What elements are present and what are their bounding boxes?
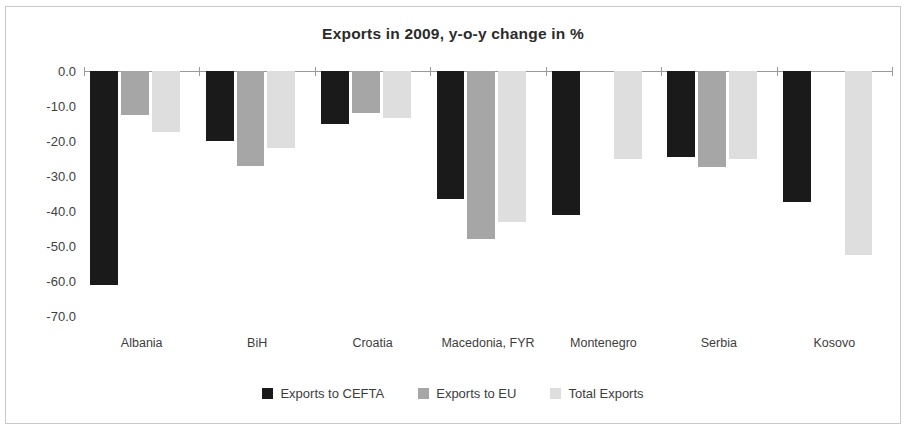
bar[interactable] [237,71,265,166]
y-axis-tick-label: -60.0 [46,274,76,289]
bar[interactable] [698,71,726,167]
chart-title: Exports in 2009, y-o-y change in % [6,25,900,43]
bar-slot [729,71,757,316]
x-axis-category-label: Montenegro [546,334,661,353]
y-axis-tick-label: -40.0 [46,204,76,219]
bar[interactable] [845,71,873,255]
legend-label: Exports to CEFTA [280,386,384,401]
bar-group: Kosovo [777,71,892,316]
legend-label: Total Exports [568,386,643,401]
bar-slot [267,71,295,316]
bar-group: BiH [199,71,314,316]
y-axis-tick-label: -10.0 [46,99,76,114]
bar-slot [667,71,695,316]
legend-swatch-icon [262,388,273,399]
x-axis-category-label: Kosovo [777,334,892,353]
bar-slot-row [430,71,545,316]
bar-group: Albania [84,71,199,316]
bar-slot [814,71,842,316]
legend-swatch-icon [550,388,561,399]
bar-slot-row [315,71,430,316]
bar[interactable] [498,71,526,222]
bar-slot [698,71,726,316]
chart-container: Exports in 2009, y-o-y change in % 0.0-1… [5,6,901,424]
bar-slot [498,71,526,316]
bar-slot [152,71,180,316]
bar[interactable] [614,71,642,159]
bar-slot-row [777,71,892,316]
bar-slot [614,71,642,316]
x-axis-category-label: Serbia [661,334,776,353]
bar-slot [437,71,465,316]
bar[interactable] [729,71,757,159]
bar-group: Croatia [315,71,430,316]
y-axis-tick-label: 0.0 [58,64,76,79]
chart-legend: Exports to CEFTAExports to EUTotal Expor… [6,386,900,401]
legend-label: Exports to EU [436,386,516,401]
bar[interactable] [667,71,695,157]
legend-item[interactable]: Total Exports [550,386,643,401]
bar[interactable] [152,71,180,132]
bar-group: Montenegro [546,71,661,316]
bar-slot [90,71,118,316]
bar[interactable] [206,71,234,141]
x-axis-category-label: Albania [84,334,199,353]
bar-slot [237,71,265,316]
bar[interactable] [783,71,811,202]
bar[interactable] [437,71,465,199]
bar-slot [583,71,611,316]
bar-slot [121,71,149,316]
legend-item[interactable]: Exports to EU [418,386,516,401]
bar-slot [321,71,349,316]
x-axis-category-label: BiH [199,334,314,353]
bar-slot [467,71,495,316]
bar-slot [845,71,873,316]
bar[interactable] [321,71,349,124]
bar-group: Serbia [661,71,776,316]
x-axis-tick [892,67,893,76]
bar-slot-row [84,71,199,316]
bar[interactable] [467,71,495,239]
bar-group: Macedonia, FYR [430,71,545,316]
bar-slot-row [199,71,314,316]
bar[interactable] [383,71,411,118]
bar-groups: AlbaniaBiHCroatiaMacedonia, FYRMontenegr… [84,71,892,316]
bar-slot [552,71,580,316]
legend-swatch-icon [418,388,429,399]
bar-slot [783,71,811,316]
bar-slot [352,71,380,316]
x-axis-category-label: Macedonia, FYR [430,334,545,353]
bar[interactable] [352,71,380,113]
legend-item[interactable]: Exports to CEFTA [262,386,384,401]
y-axis-tick-label: -50.0 [46,239,76,254]
bar[interactable] [90,71,118,285]
bar-slot [206,71,234,316]
y-axis-tick-label: -20.0 [46,134,76,149]
y-axis-tick-label: -70.0 [46,309,76,324]
bar-slot-row [661,71,776,316]
bar[interactable] [552,71,580,215]
plot-area: 0.0-10.0-20.0-30.0-40.0-50.0-60.0-70.0 A… [84,71,892,316]
y-axis-tick-label: -30.0 [46,169,76,184]
bar-slot-row [546,71,661,316]
bar-slot [383,71,411,316]
x-axis-category-label: Croatia [315,334,430,353]
bar[interactable] [267,71,295,148]
bar[interactable] [121,71,149,115]
